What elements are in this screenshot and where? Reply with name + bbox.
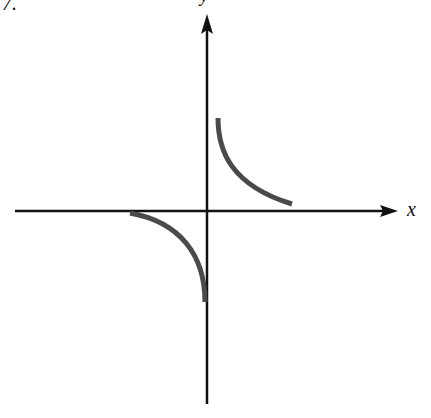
curve-upper-right-branch — [218, 118, 292, 204]
curve-lower-left-branch — [130, 213, 205, 302]
graph-canvas — [0, 0, 431, 418]
